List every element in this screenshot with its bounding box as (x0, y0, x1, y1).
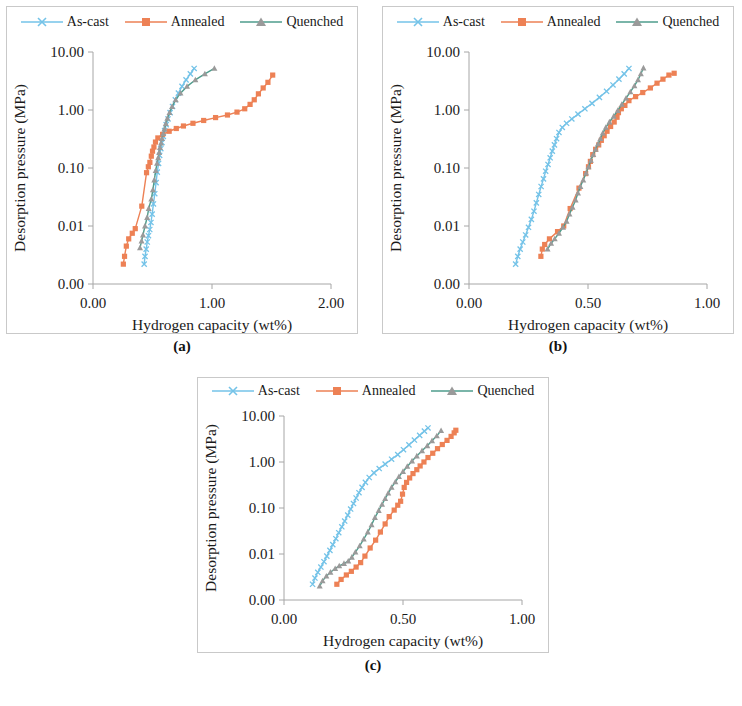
x-tick-label: 1.00 (199, 295, 225, 311)
chart-panel-a: As-castAnnealedQuenched 10.001.000.100.0… (6, 6, 358, 334)
series-line-as-cast (313, 428, 428, 584)
legend-label: Quenched (286, 15, 343, 29)
series-line-as-cast (516, 68, 629, 264)
legend-label: Annealed (362, 384, 416, 398)
legend-item-as-cast[interactable]: As-cast (397, 15, 485, 29)
y-tick-label: 0.10 (58, 160, 84, 176)
legend-swatch-triangle-icon (240, 16, 282, 28)
y-axis-title: Desorption pressure (MPa) (11, 84, 29, 252)
panel-caption-b: (b) (382, 338, 734, 355)
legend-label: As-cast (258, 384, 300, 398)
legend-item-as-cast[interactable]: As-cast (212, 384, 300, 398)
x-axis-title: Hydrogen capacity (wt%) (508, 316, 668, 333)
plot-area-b: 10.001.000.100.010.000.000.501.00Hydroge… (383, 7, 733, 333)
legend-label: Quenched (477, 384, 534, 398)
series-line-quenched (320, 431, 441, 586)
legend-label: As-cast (443, 15, 485, 29)
legend-panel-c: As-castAnnealedQuenched (198, 384, 548, 398)
legend-item-quenched[interactable]: Quenched (240, 15, 343, 29)
x-axis-title: Hydrogen capacity (wt%) (323, 632, 483, 650)
legend-item-annealed[interactable]: Annealed (501, 15, 601, 29)
plot-area-c: 10.001.000.100.010.000.000.501.00Hydroge… (198, 378, 548, 652)
series-markers-quenched (545, 65, 647, 252)
legend-item-annealed[interactable]: Annealed (316, 384, 416, 398)
y-tick-label: 1.00 (434, 102, 460, 118)
legend-item-quenched[interactable]: Quenched (616, 15, 719, 29)
panel-caption-a: (a) (6, 338, 358, 355)
legend-label: Annealed (547, 15, 601, 29)
legend-swatch-square-icon (125, 16, 167, 28)
x-tick-label: 0.50 (575, 295, 601, 311)
series-line-quenched (548, 68, 644, 249)
y-tick-label: 10.00 (50, 44, 84, 60)
legend-swatch-x-icon (397, 16, 439, 28)
x-axis-title: Hydrogen capacity (wt%) (132, 316, 292, 333)
legend-swatch-triangle-icon (616, 16, 658, 28)
legend-swatch-x-icon (212, 385, 254, 397)
legend-label: As-cast (67, 15, 109, 29)
x-tick-label: 1.00 (694, 295, 720, 311)
x-tick-label: 0.00 (456, 295, 482, 311)
y-tick-label: 0.10 (434, 160, 460, 176)
y-tick-label: 0.01 (58, 218, 84, 234)
x-tick-label: 0.00 (271, 611, 297, 627)
legend-item-as-cast[interactable]: As-cast (21, 15, 109, 29)
legend-swatch-x-icon (21, 16, 63, 28)
x-tick-label: 0.00 (80, 295, 106, 311)
series-line-as-cast (144, 68, 194, 264)
y-tick-label: 0.00 (434, 276, 460, 292)
series-markers-as-cast (310, 425, 431, 587)
panel-caption-c: (c) (197, 657, 549, 674)
legend-swatch-square-icon (316, 385, 358, 397)
chart-panel-b: As-castAnnealedQuenched 10.001.000.100.0… (382, 6, 734, 334)
y-tick-label: 0.01 (249, 546, 275, 562)
y-tick-label: 10.00 (241, 408, 275, 424)
figure-pct-desorption-curves: As-castAnnealedQuenched 10.001.000.100.0… (0, 0, 742, 706)
y-tick-label: 1.00 (58, 102, 84, 118)
y-tick-label: 1.00 (249, 454, 275, 470)
x-tick-label: 1.00 (509, 611, 535, 627)
legend-swatch-triangle-icon (431, 385, 473, 397)
legend-panel-b: As-castAnnealedQuenched (383, 15, 733, 29)
series-markers-as-cast (513, 66, 631, 267)
legend-swatch-square-icon (501, 16, 543, 28)
y-tick-label: 0.01 (434, 218, 460, 234)
legend-label: Quenched (662, 15, 719, 29)
x-tick-label: 0.50 (390, 611, 416, 627)
legend-label: Annealed (171, 15, 225, 29)
plot-area-a: 10.001.000.100.010.000.001.002.00Hydroge… (7, 7, 357, 333)
y-tick-label: 0.10 (249, 500, 275, 516)
y-tick-label: 10.00 (426, 44, 460, 60)
chart-panel-c: As-castAnnealedQuenched 10.001.000.100.0… (197, 377, 549, 653)
legend-panel-a: As-castAnnealedQuenched (7, 15, 357, 29)
y-tick-label: 0.00 (249, 592, 275, 608)
legend-item-quenched[interactable]: Quenched (431, 384, 534, 398)
y-axis-title: Desorption pressure (MPa) (387, 84, 405, 252)
x-tick-label: 2.00 (318, 295, 344, 311)
legend-item-annealed[interactable]: Annealed (125, 15, 225, 29)
y-axis-title: Desorption pressure (MPa) (202, 424, 220, 592)
series-markers-annealed (121, 72, 276, 266)
y-tick-label: 0.00 (58, 276, 84, 292)
